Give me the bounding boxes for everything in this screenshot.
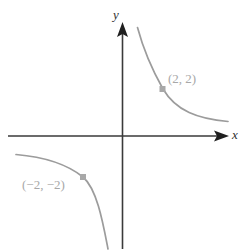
marker-point-neg2-neg2: [80, 174, 86, 180]
y-axis-label: y: [113, 8, 119, 21]
axes-group: [8, 22, 229, 249]
curve-branch-quadrant-3: [16, 155, 108, 250]
point-label-2-2: (2, 2): [168, 72, 196, 85]
graph-figure: y x (2, 2) (−2, −2): [0, 0, 250, 251]
coordinate-plane-svg: [0, 0, 250, 251]
marker-point-2-2: [160, 86, 166, 92]
point-label-neg2-neg2: (−2, −2): [22, 178, 65, 191]
x-axis-label: x: [232, 128, 238, 141]
